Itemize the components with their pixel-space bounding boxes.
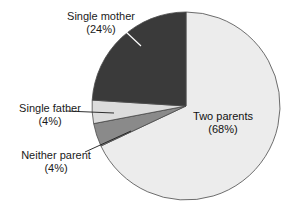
label-value-single-mother: (24%) [86, 23, 115, 35]
pie-chart-svg: Single mother (24%) Single father (4%) N… [0, 0, 291, 217]
pie-slices [92, 12, 280, 200]
label-value-two-parents: (68%) [208, 123, 237, 135]
label-neither-parent: Neither parent [21, 149, 91, 161]
label-value-single-father: (4%) [38, 115, 61, 127]
label-two-parents: Two parents [193, 110, 253, 122]
label-value-neither-parent: (4%) [44, 162, 67, 174]
label-single-father: Single father [19, 102, 81, 114]
label-single-mother: Single mother [67, 10, 135, 22]
pie-chart-figure: Single mother (24%) Single father (4%) N… [0, 0, 291, 217]
